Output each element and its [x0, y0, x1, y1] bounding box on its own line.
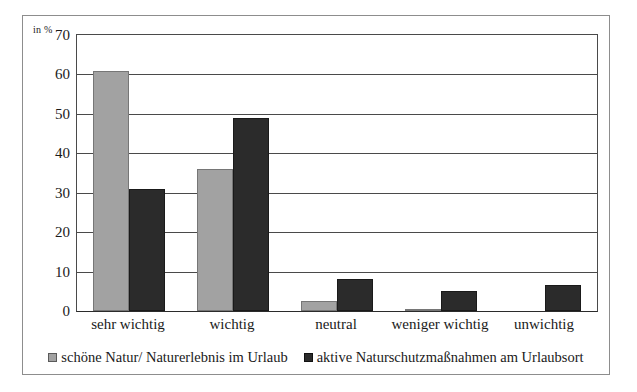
y-axis-tick-label: 0	[63, 304, 71, 319]
x-axis-tick-label: wichtig	[210, 316, 255, 333]
legend-label: aktive Naturschutzmaßnahmen am Urlaubsor…	[317, 349, 584, 366]
x-axis-tick-label: weniger wichtig	[391, 316, 488, 333]
bar	[545, 285, 581, 311]
y-axis-unit-label: in %	[33, 24, 52, 35]
bar-group	[197, 35, 269, 311]
legend-swatch-icon	[304, 353, 313, 362]
legend-label: schöne Natur/ Naturerlebnis im Urlaub	[61, 349, 287, 366]
bar-group	[509, 35, 581, 311]
y-axis-tick-label: 30	[55, 185, 70, 200]
bar	[129, 189, 165, 311]
bar	[405, 309, 441, 311]
plot-area: 706050403020100	[76, 34, 598, 312]
x-axis-tick-label: unwichtig	[514, 316, 574, 333]
y-axis-tick-label: 50	[55, 106, 70, 121]
x-axis-tick-label: neutral	[315, 316, 357, 333]
y-axis-tick-label: 20	[55, 225, 70, 240]
legend-entry: schöne Natur/ Naturerlebnis im Urlaub	[48, 349, 287, 366]
y-axis-tick-label: 40	[55, 146, 70, 161]
bar	[233, 118, 269, 311]
chart-frame: in % 706050403020100 sehr wichtigwichtig…	[22, 15, 610, 375]
bar	[337, 279, 373, 311]
bar	[197, 169, 233, 311]
bar	[93, 71, 129, 312]
y-axis-tick-label: 10	[55, 264, 70, 279]
chart-legend: schöne Natur/ Naturerlebnis im Urlaubakt…	[31, 346, 601, 368]
bar-group	[93, 35, 165, 311]
bar	[301, 301, 337, 311]
bar-group	[405, 35, 477, 311]
legend-swatch-icon	[48, 353, 57, 362]
x-axis-tick-label: sehr wichtig	[91, 316, 165, 333]
bar-group	[301, 35, 373, 311]
legend-entry: aktive Naturschutzmaßnahmen am Urlaubsor…	[304, 349, 584, 366]
y-axis-tick-label: 70	[55, 28, 70, 43]
y-axis-tick-label: 60	[55, 67, 70, 82]
bars-layer	[77, 35, 597, 311]
bar	[441, 291, 477, 311]
x-axis-category-labels: sehr wichtigwichtigneutralweniger wichti…	[76, 316, 598, 338]
